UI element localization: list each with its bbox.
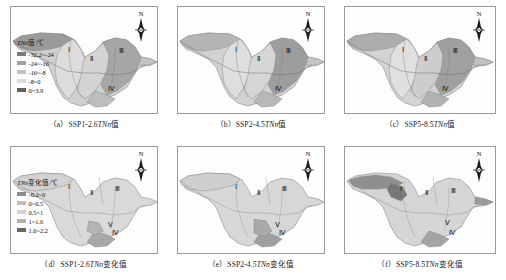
caption-variable: TNn — [257, 260, 270, 269]
panel-caption-f: （f）SSP5-8.5TNn变化值 — [377, 258, 463, 269]
north-label: N — [299, 10, 317, 17]
caption-index: （b） — [216, 120, 236, 129]
legend-swatch — [17, 210, 26, 213]
legend-value-a: TNn值/℃ -32.2~-24 -24~-16 -16~-8 -8~0 — [17, 37, 54, 95]
map-frame-f: Ⅰ Ⅱ Ⅲ Ⅴ Ⅳ N — [344, 146, 496, 254]
north-label: N — [299, 150, 317, 157]
panel-c: Ⅰ Ⅱ Ⅲ Ⅳ N （c）SSP5-8.5TNn值 — [334, 0, 506, 140]
caption-suffix: 值 — [447, 120, 455, 129]
region-label: Ⅳ — [275, 85, 282, 93]
north-label: N — [132, 10, 150, 17]
legend-label: 1~1.6 — [29, 218, 44, 225]
region-label: Ⅴ — [445, 219, 450, 227]
legend-label: -16~-8 — [29, 69, 46, 76]
legend-swatch — [17, 88, 26, 91]
region-label: Ⅰ — [235, 183, 237, 191]
caption-index: （d） — [40, 260, 60, 269]
region-label: Ⅱ — [90, 55, 93, 63]
region-label: Ⅲ — [115, 185, 120, 193]
legend-swatch — [17, 219, 26, 222]
legend-row: -8~0 — [17, 77, 54, 86]
region-label: Ⅳ — [112, 229, 119, 237]
region-label: Ⅳ — [449, 229, 456, 237]
legend-label: -8~0 — [29, 78, 41, 85]
map-frame-b: Ⅰ Ⅱ Ⅲ Ⅳ N — [177, 6, 325, 114]
basin-outline-e — [180, 173, 324, 247]
legend-title-unit: 值/℃ — [28, 39, 44, 46]
region-label: Ⅲ — [282, 185, 287, 193]
region-label: Ⅰ — [402, 46, 404, 54]
region-label: Ⅲ — [451, 187, 456, 195]
legend-title: TNn值/℃ — [17, 37, 54, 47]
panel-caption-e: （e）SSP2-4.5TNn变化值 — [208, 258, 295, 269]
caption-suffix: 变化值 — [103, 260, 127, 269]
region-label: Ⅰ — [68, 46, 70, 54]
figure-panel-grid: Ⅰ Ⅱ Ⅲ Ⅳ TNn值/℃ -32.2~-24 -24~-16 -16~-8 — [0, 0, 506, 280]
caption-scenario: SSP1-2.6 — [68, 120, 97, 129]
caption-variable: TNn — [265, 120, 278, 129]
caption-scenario: SSP2-4.5 — [236, 120, 265, 129]
caption-index: （c） — [385, 120, 405, 129]
legend-row: -0.2~0 — [17, 190, 58, 199]
region-label: Ⅰ — [400, 185, 402, 193]
caption-variable: TNn — [425, 260, 438, 269]
caption-index: （a） — [49, 120, 69, 129]
region-label: Ⅳ — [108, 85, 115, 93]
legend-label: -0.2~0 — [29, 191, 46, 198]
compass-needle-icon — [301, 157, 315, 183]
north-label: N — [132, 150, 150, 157]
caption-scenario: SSP5-8.5 — [404, 120, 433, 129]
region-label: Ⅱ — [424, 55, 427, 63]
legend-row: 0~3.9 — [17, 86, 54, 95]
compass-needle-icon — [301, 17, 315, 43]
region-label: Ⅳ — [279, 229, 286, 237]
north-arrow-d: N — [132, 150, 150, 184]
north-label: N — [470, 10, 488, 17]
legend-row: 0.5~1 — [17, 208, 58, 217]
caption-scenario: SSP2-4.5 — [227, 260, 256, 269]
north-arrow-b: N — [299, 10, 317, 44]
north-arrow-f: N — [470, 150, 488, 184]
caption-variable: TNn — [90, 260, 103, 269]
caption-scenario: SSP1-2.6 — [61, 260, 90, 269]
caption-suffix: 变化值 — [439, 260, 463, 269]
map-frame-d: Ⅰ Ⅱ Ⅲ Ⅴ Ⅳ TNn变化值/℃ -0.2~0 0~0.5 0.5~1 — [10, 146, 158, 254]
region-label: Ⅳ — [442, 85, 449, 93]
legend-swatch — [17, 228, 26, 231]
caption-index: （f） — [377, 260, 396, 269]
map-frame-a: Ⅰ Ⅱ Ⅲ Ⅳ TNn值/℃ -32.2~-24 -24~-16 -16~-8 — [10, 6, 158, 114]
caption-variable: TNn — [98, 120, 111, 129]
caption-suffix: 变化值 — [270, 260, 294, 269]
panel-b: Ⅰ Ⅱ Ⅲ Ⅳ N （b）SSP2-4.5TNn值 — [168, 0, 334, 140]
map-frame-c: Ⅰ Ⅱ Ⅲ Ⅳ N — [344, 6, 496, 114]
legend-swatch — [17, 192, 26, 195]
legend-swatch — [17, 79, 26, 82]
panel-d: Ⅰ Ⅱ Ⅲ Ⅴ Ⅳ TNn变化值/℃ -0.2~0 0~0.5 0.5~1 — [0, 140, 168, 280]
compass-needle-icon — [472, 17, 486, 43]
compass-needle-icon — [472, 157, 486, 183]
legend-row: -16~-8 — [17, 68, 54, 77]
caption-suffix: 值 — [278, 120, 286, 129]
legend-title-variable: TNn — [17, 39, 28, 46]
panel-caption-d: （d）SSP1-2.6TNn变化值 — [40, 258, 127, 269]
panel-caption-a: （a）SSP1-2.6TNn值 — [49, 118, 119, 129]
legend-row: 0~0.5 — [17, 199, 58, 208]
region-label: Ⅱ — [257, 189, 260, 197]
legend-title-variable: TNn — [17, 179, 28, 186]
caption-index: （e） — [208, 260, 228, 269]
legend-label: -24~-16 — [29, 60, 50, 67]
panel-caption-b: （b）SSP2-4.5TNn值 — [216, 118, 287, 129]
region-label: Ⅴ — [275, 221, 280, 229]
region-label: Ⅲ — [453, 47, 458, 55]
region-label: Ⅱ — [90, 189, 93, 197]
legend-title-unit: 变化值/℃ — [28, 179, 58, 186]
caption-suffix: 值 — [111, 120, 119, 129]
panel-f: Ⅰ Ⅱ Ⅲ Ⅴ Ⅳ N （f）SSP5-8.5TNn变化值 — [334, 140, 506, 280]
legend-row: -32.2~-24 — [17, 50, 54, 59]
legend-label: 1.6~2.2 — [29, 227, 48, 234]
caption-scenario: SSP5-8.5 — [396, 260, 425, 269]
panel-caption-c: （c）SSP5-8.5TNn值 — [385, 118, 455, 129]
region-label: Ⅱ — [257, 55, 260, 63]
caption-variable: TNn — [434, 120, 447, 129]
legend-change-d: TNn变化值/℃ -0.2~0 0~0.5 0.5~1 1~1.6 — [17, 177, 58, 235]
